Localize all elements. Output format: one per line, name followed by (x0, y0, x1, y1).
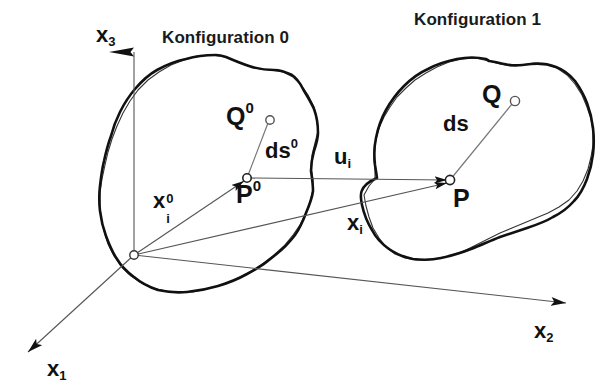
axis-label-x2-sub: 2 (546, 330, 553, 345)
continuum-deformation-diagram: Konfiguration 0 Konfiguration 1 x3 x2 x1… (0, 0, 603, 389)
vector-label-ui-sub: i (347, 156, 351, 171)
point-label-Q0-base: Q (226, 102, 245, 130)
point-label-P0-base: P (236, 180, 253, 208)
title-configuration-0: Konfiguration 0 (162, 28, 289, 48)
vector-label-xi-sub: i (359, 222, 363, 237)
axis-label-x1-base: x (47, 356, 59, 381)
axis-label-x2: x2 (534, 320, 553, 342)
axis-label-x1-sub: 1 (59, 368, 66, 383)
vector-label-xi0-sup: 0 (166, 192, 173, 205)
title-configuration-1: Konfiguration 1 (414, 10, 541, 30)
axis-label-x3: x3 (96, 24, 115, 46)
point-label-Q-base: Q (482, 80, 501, 108)
vector-label-xi0: x0i (153, 190, 165, 212)
point-label-Q0-sup: 0 (245, 99, 253, 116)
vector-ui-line (247, 178, 447, 180)
axis-label-x2-base: x (534, 318, 546, 343)
vector-label-xi0-base: x (153, 188, 165, 213)
vector-label-ui-base: u (334, 144, 347, 169)
body-outline-configuration-1-texture (364, 58, 593, 260)
vector-xi0-line (134, 181, 244, 255)
point-label-P: P (453, 186, 470, 211)
axis-label-x1: x1 (47, 358, 66, 380)
figure-canvas (0, 0, 603, 389)
node-Q (510, 96, 519, 105)
node-Q0 (266, 116, 274, 124)
vector-xi-line (134, 183, 447, 255)
vector-label-ui: ui (334, 146, 351, 168)
axis-label-x3-base: x (96, 22, 108, 47)
point-label-P0-sup: 0 (253, 177, 261, 194)
vector-label-ds: ds (443, 113, 469, 135)
vector-label-xi-base: x (347, 210, 359, 235)
point-label-Q: Q (482, 82, 501, 107)
point-label-Q0: Q0 (226, 104, 254, 129)
axis-x1-line (28, 255, 134, 352)
origin-node (130, 251, 138, 259)
body-outline-configuration-1 (361, 58, 594, 260)
vector-label-ds0-base: ds (265, 138, 291, 163)
axis-label-x3-sub: 3 (108, 34, 115, 49)
vector-label-xi: xi (347, 212, 363, 234)
point-label-P0: P0 (236, 182, 261, 207)
vector-label-ds-base: ds (443, 111, 469, 136)
axis-x2-line (134, 255, 566, 303)
vector-label-xi0-sub: i (166, 212, 170, 225)
vector-label-ds0: ds0 (265, 140, 298, 162)
point-label-P-base: P (453, 184, 470, 212)
vector-label-ds0-sup: 0 (291, 136, 298, 151)
